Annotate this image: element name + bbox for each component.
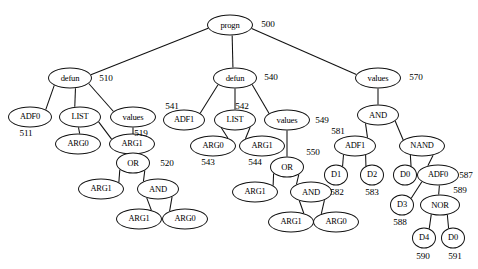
node-number-tag: 541 — [165, 101, 178, 111]
node-number-tag: 540 — [264, 72, 277, 82]
tree-node-adf0: ADF0 — [8, 107, 52, 128]
tree-node-label: values — [123, 113, 144, 122]
tree-node-or: OR — [270, 157, 304, 178]
tree-node-arg1: ARG1 — [239, 136, 285, 157]
tree-node-d4: D4 — [412, 228, 436, 249]
tree-node-label: ARG0 — [67, 140, 88, 148]
tree-node-progn: progn — [207, 15, 253, 36]
tree-node-label: ARG0 — [325, 218, 346, 226]
tree-node-d1: D1 — [324, 165, 348, 186]
tree-node-arg0: ARG0 — [162, 209, 208, 230]
tree-edge — [46, 85, 54, 109]
tree-node-defun: defun — [48, 68, 92, 89]
tree-diagram-canvas: progndefundefunvaluesADF0LISTvaluesARG0A… — [0, 0, 478, 269]
tree-node-label: ARG1 — [244, 188, 265, 196]
tree-edge — [170, 197, 172, 211]
tree-edge — [365, 123, 367, 137]
tree-node-label: ADF1 — [345, 142, 365, 150]
tree-node-label: ARG1 — [90, 185, 111, 193]
tree-node-arg1: ARG1 — [268, 212, 314, 233]
tree-edge — [119, 170, 120, 183]
tree-node-label: LIST — [227, 116, 244, 124]
tree-node-label: NOR — [431, 201, 449, 210]
node-number-tag: 590 — [416, 251, 429, 261]
tree-node-or: OR — [116, 153, 150, 174]
node-number-tag: 589 — [453, 185, 466, 195]
tree-node-label: D2 — [367, 171, 377, 179]
tree-node-label: ADF1 — [174, 116, 194, 124]
node-number-tag: 520 — [160, 158, 173, 168]
tree-node-and: AND — [290, 182, 332, 203]
node-number-tag: 591 — [448, 251, 461, 261]
tree-node-label: AND — [302, 188, 320, 197]
tree-node-label: defun — [226, 74, 245, 83]
tree-node-label: ARG0 — [174, 215, 195, 223]
tree-edge — [429, 214, 431, 228]
node-number-tag: 511 — [19, 128, 32, 138]
tree-node-label: ARG1 — [121, 140, 142, 148]
node-number-tag: 588 — [393, 217, 406, 227]
node-number-tag: 544 — [248, 157, 261, 167]
tree-node-d2: D2 — [360, 165, 384, 186]
tree-node-arg1: ARG1 — [109, 134, 155, 155]
tree-node-d3: D3 — [390, 195, 414, 216]
tree-node-label: ADF0 — [20, 113, 40, 121]
tree-node-values: values — [355, 68, 401, 89]
tree-node-values: values — [264, 110, 310, 131]
node-number-tag: 542 — [235, 101, 248, 111]
tree-node-arg0: ARG0 — [190, 136, 236, 157]
tree-node-d0: D0 — [441, 228, 465, 249]
tree-node-adf0: ADF0 — [417, 165, 459, 186]
node-number-tag: 582 — [330, 187, 343, 197]
node-number-tag: 581 — [331, 126, 344, 136]
tree-node-label: ARG1 — [128, 215, 149, 223]
tree-node-list: LIST — [59, 107, 101, 128]
node-number-tag: 510 — [99, 73, 112, 83]
tree-node-label: ARG1 — [280, 218, 301, 226]
tree-node-and: AND — [357, 105, 399, 126]
tree-node-label: D0 — [400, 171, 410, 179]
tree-node-label: D3 — [397, 201, 407, 209]
tree-node-adf1: ADF1 — [334, 136, 376, 157]
tree-node-label: AND — [149, 185, 167, 194]
tree-node-label: D4 — [419, 234, 429, 242]
tree-node-nor: NOR — [420, 195, 460, 216]
node-number-tag: 549 — [315, 115, 328, 125]
tree-edge — [232, 35, 233, 67]
tree-node-adf1: ADF1 — [163, 110, 205, 131]
tree-node-label: values — [368, 74, 389, 83]
tree-node-label: OR — [127, 159, 139, 168]
tree-edge — [99, 122, 112, 139]
tree-edge — [91, 28, 208, 74]
node-number-tag: 587 — [459, 170, 472, 180]
tree-node-label: progn — [220, 21, 239, 30]
tree-edge — [89, 84, 114, 112]
tree-edge — [439, 185, 440, 194]
tree-node-defun: defun — [213, 68, 257, 89]
tree-node-list: LIST — [214, 110, 256, 131]
tree-node-label: AND — [369, 111, 387, 120]
tree-node-label: LIST — [72, 113, 89, 121]
tree-edge — [447, 215, 448, 228]
node-number-tag: 583 — [365, 187, 378, 197]
tree-node-arg1: ARG1 — [232, 182, 278, 203]
tree-node-values: values — [110, 107, 156, 128]
tree-node-arg0: ARG0 — [313, 212, 359, 233]
tree-edge — [252, 85, 269, 114]
tree-node-arg1: ARG1 — [116, 209, 162, 230]
tree-edge — [200, 85, 218, 114]
tree-node-label: D1 — [331, 171, 341, 179]
node-number-tag: 570 — [409, 72, 422, 82]
tree-node-and: AND — [137, 179, 179, 200]
tree-node-label: ARG1 — [251, 142, 272, 150]
tree-node-d0: D0 — [393, 165, 417, 186]
tree-edge — [75, 88, 76, 107]
tree-node-arg0: ARG0 — [55, 134, 101, 155]
tree-edge — [410, 155, 411, 166]
node-number-tag: 500 — [261, 19, 274, 29]
tree-node-arg1: ARG1 — [78, 179, 124, 200]
tree-edge — [411, 182, 422, 199]
node-number-tag: 519 — [134, 128, 147, 138]
tree-node-label: NAND — [410, 142, 433, 150]
node-number-tag: 550 — [306, 147, 319, 157]
